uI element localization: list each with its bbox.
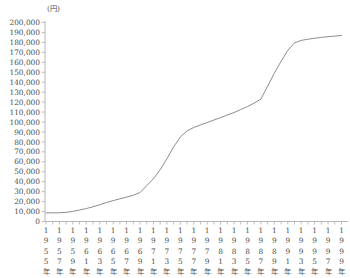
y-tick-label: 60,000: [14, 157, 40, 166]
y-tick-label: 90,000: [14, 128, 40, 137]
x-tick-label: 1995年: [311, 226, 319, 276]
x-tick-label: 1977年: [190, 226, 198, 276]
x-tick-label: 1961年: [83, 226, 91, 276]
y-tick-label: 140,000: [9, 78, 40, 87]
y-tick-label: 180,000: [9, 38, 40, 47]
x-tick-label: 1991年: [284, 226, 292, 276]
y-tick-label: 20,000: [14, 197, 40, 206]
y-tick-label: 130,000: [9, 88, 40, 97]
x-tick-label: 1999年: [338, 226, 346, 276]
y-tick-label: 110,000: [9, 108, 40, 117]
y-axis-unit-label: (円): [47, 4, 60, 13]
y-tick-label: 10,000: [14, 207, 40, 216]
y-axis-unit: (円): [47, 4, 60, 13]
x-tick-label: 1979年: [204, 226, 212, 276]
x-tick-label: 1975年: [177, 226, 185, 276]
line-chart: 010,00020,00030,00040,00050,00060,00070,…: [0, 0, 350, 278]
x-tick-label: 1971年: [150, 226, 158, 276]
y-tick-label: 50,000: [14, 167, 40, 176]
x-tick-label: 1997年: [325, 226, 333, 276]
x-axis-labels: 1955年1957年1959年1961年1963年1965年1967年1969年…: [43, 226, 347, 276]
y-tick-label: 70,000: [14, 147, 40, 156]
y-tick-label: 160,000: [9, 58, 40, 67]
x-tick-label: 1973年: [163, 226, 171, 276]
y-tick-label: 30,000: [14, 187, 40, 196]
y-tick-label: 40,000: [14, 177, 40, 186]
x-tick-label: 1955年: [43, 226, 51, 276]
x-tick-label: 1957年: [56, 226, 64, 276]
x-tick-label: 1985年: [244, 226, 252, 276]
x-tick-label: 1963年: [96, 226, 104, 276]
x-tick-label: 1989年: [271, 226, 279, 276]
y-tick-label: 100,000: [9, 118, 40, 127]
x-tick-label: 1993年: [298, 226, 306, 276]
data-line: [46, 35, 342, 212]
x-tick-label: 1983年: [231, 226, 239, 276]
data-series: [46, 35, 342, 212]
y-tick-label: 170,000: [9, 48, 40, 57]
y-tick-label: 150,000: [9, 68, 40, 77]
y-tick-label: 120,000: [9, 98, 40, 107]
chart-container: 010,00020,00030,00040,00050,00060,00070,…: [0, 0, 350, 278]
y-tick-label: 190,000: [9, 28, 40, 37]
axes: [45, 21, 348, 222]
x-tick-label: 1969年: [137, 226, 145, 276]
x-tick-label: 1965年: [110, 226, 118, 276]
y-axis-ticks-and-labels: 010,00020,00030,00040,00050,00060,00070,…: [9, 18, 45, 226]
y-tick-label: 200,000: [9, 18, 40, 27]
y-tick-label: 80,000: [14, 138, 40, 147]
y-tick-label: 0: [35, 217, 40, 226]
x-tick-label: 1967年: [123, 226, 131, 276]
x-tick-label: 1981年: [217, 226, 225, 276]
x-tick-label: 1987年: [257, 226, 265, 276]
x-tick-label: 1959年: [69, 226, 77, 276]
